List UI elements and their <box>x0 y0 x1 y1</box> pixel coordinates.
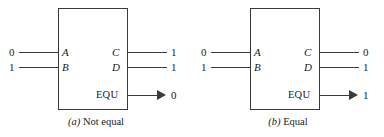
logic-diagram-figure: A B C D EQU 0 1 1 1 0 (a) Not equal A B … <box>0 0 384 137</box>
port-label-d: D <box>112 62 120 73</box>
port-label-d: D <box>304 62 312 73</box>
output-value-c: 1 <box>171 47 177 58</box>
port-label-c: C <box>112 47 119 58</box>
output-wire-d <box>128 67 167 68</box>
caption-title: Equal <box>283 116 308 127</box>
output-wire-equ <box>128 95 160 96</box>
input-wire-a <box>19 52 58 53</box>
port-label-c: C <box>304 47 311 58</box>
input-value-a: 0 <box>201 47 207 58</box>
panel-caption-a: (a) Not equal <box>0 116 192 128</box>
port-label-a: A <box>62 47 69 58</box>
input-value-b: 1 <box>201 62 207 73</box>
output-value-c: 0 <box>363 47 369 58</box>
input-wire-b <box>211 67 250 68</box>
comparator-panel-a: A B C D EQU 0 1 1 1 0 (a) Not equal <box>0 0 192 137</box>
port-label-equ: EQU <box>96 90 118 101</box>
output-value-equ: 1 <box>363 90 369 101</box>
output-wire-c <box>320 52 359 53</box>
output-value-d: 1 <box>363 62 369 73</box>
input-value-a: 0 <box>9 47 15 58</box>
output-wire-equ <box>320 95 352 96</box>
output-wire-d <box>320 67 359 68</box>
arrowhead-icon <box>349 90 358 100</box>
port-label-equ: EQU <box>288 90 310 101</box>
panel-caption-b: (b) Equal <box>192 116 384 128</box>
output-wire-c <box>128 52 167 53</box>
port-label-b: B <box>62 62 69 73</box>
arrowhead-icon <box>157 90 166 100</box>
input-wire-b <box>19 67 58 68</box>
caption-label: (b) <box>268 116 280 127</box>
input-wire-a <box>211 52 250 53</box>
comparator-panel-b: A B C D EQU 0 1 0 1 1 (b) Equal <box>192 0 384 137</box>
port-label-b: B <box>254 62 261 73</box>
port-label-a: A <box>254 47 261 58</box>
output-value-d: 1 <box>171 62 177 73</box>
caption-title: Not equal <box>83 116 124 127</box>
output-value-equ: 0 <box>171 90 177 101</box>
caption-label: (a) <box>68 116 80 127</box>
input-value-b: 1 <box>9 62 15 73</box>
